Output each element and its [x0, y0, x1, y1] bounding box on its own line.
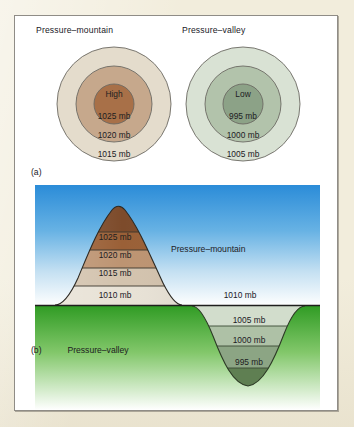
figure-svg: Pressure–mountain High 1025 mb 1020 mb 1… [0, 0, 354, 427]
cross-section-label-995: 995 mb [235, 357, 263, 367]
mountain-isobar-map: High 1025 mb 1020 mb 1015 mb [57, 47, 171, 161]
valley-map-title: Pressure–valley [182, 25, 246, 35]
mountain-isobar-label-1015: 1015 mb [98, 149, 131, 159]
mountain-isobar-label-1025: 1025 mb [98, 111, 131, 121]
cross-section-mountain-title: Pressure–mountain [171, 244, 246, 254]
panel-a-group: Pressure–mountain High 1025 mb 1020 mb 1… [31, 25, 300, 177]
mountain-center-label: High [105, 89, 123, 99]
cross-section-valley-title: Pressure–valley [67, 345, 129, 355]
cross-section-label-1015: 1015 mb [99, 268, 132, 278]
panel-b-group: 1025 mb 1020 mb 1015 mb 1010 mb Pressure… [31, 185, 320, 410]
cross-section-label-1000: 1000 mb [233, 335, 266, 345]
cross-section-label-1025: 1025 mb [99, 232, 132, 242]
figure-root: Pressure–mountain High 1025 mb 1020 mb 1… [0, 0, 354, 427]
cross-section-label-1010-surface: 1010 mb [224, 290, 257, 300]
cross-section-label-1010-mountain: 1010 mb [99, 290, 132, 300]
cross-section-label-1005: 1005 mb [233, 315, 266, 325]
valley-center-label: Low [235, 89, 251, 99]
valley-isobar-map: Low 995 mb 1000 mb 1005 mb [186, 47, 300, 161]
panel-b-caption: (b) [31, 345, 42, 355]
mountain-map-title: Pressure–mountain [36, 25, 113, 35]
valley-isobar-label-1000: 1000 mb [227, 130, 260, 140]
valley-isobar-label-1005: 1005 mb [227, 149, 260, 159]
mountain-isobar-label-1020: 1020 mb [98, 130, 131, 140]
valley-isobar-label-995: 995 mb [229, 111, 257, 121]
panel-a-caption: (a) [31, 167, 42, 177]
cross-section-label-1020: 1020 mb [99, 250, 132, 260]
